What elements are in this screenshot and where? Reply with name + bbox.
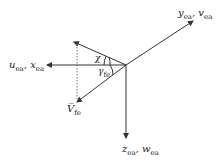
angle-chi-arc (104, 56, 106, 65)
y-axis-label: yea, vea (178, 8, 212, 21)
x-axis-label: uea, xea (9, 60, 44, 73)
y-axis-arrow (126, 21, 193, 65)
angle-gamma-arc (110, 65, 113, 75)
angle-chi-label: χ (95, 54, 100, 63)
axes-drawing (0, 0, 218, 165)
angle-gamma-label: γfe (98, 67, 110, 79)
diagram-canvas: yea, vea uea, xea zea, wea V̅fe χ γfe (0, 0, 218, 165)
velocity-label: V̅fe (67, 104, 81, 117)
z-axis-label: zea, wea (122, 144, 159, 157)
